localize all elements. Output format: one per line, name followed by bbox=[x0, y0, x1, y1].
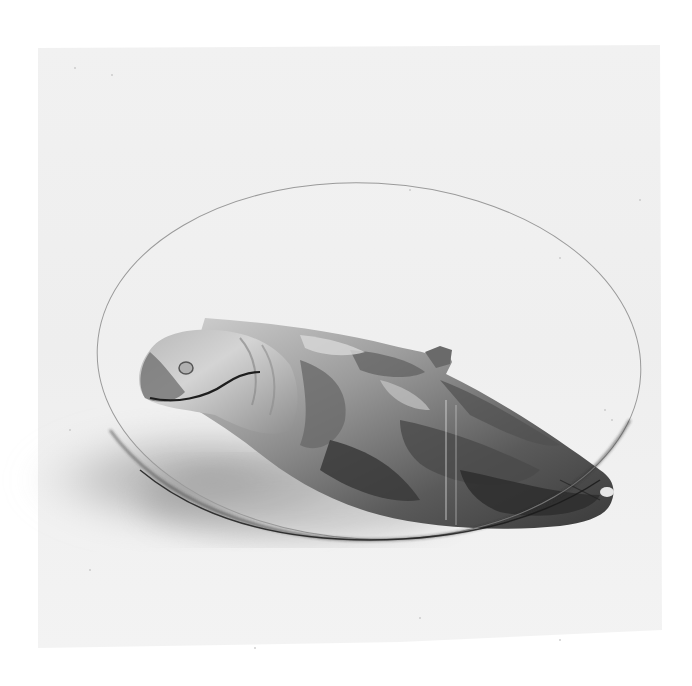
seal-table-photo bbox=[0, 0, 692, 686]
seal-eye bbox=[179, 362, 193, 374]
